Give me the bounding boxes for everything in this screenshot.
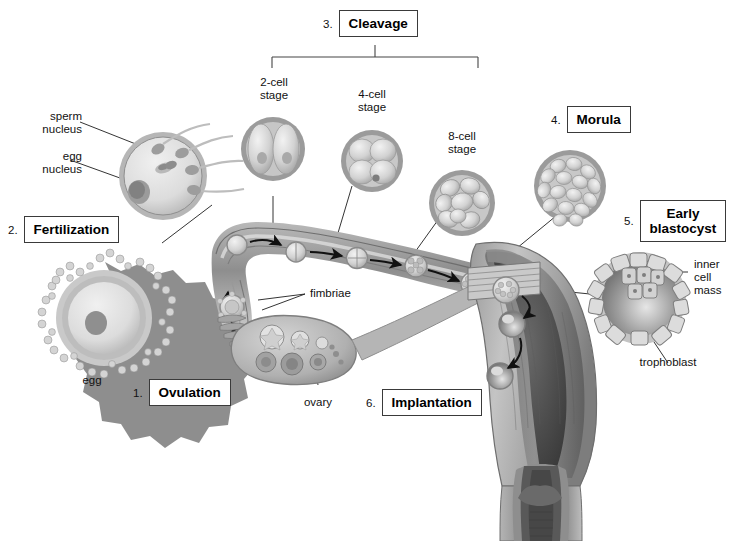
two-cell-stage-illustration (241, 117, 305, 181)
label-two-cell-stage: 2-cell stage (243, 76, 305, 102)
diagram-canvas: 3. Cleavage 2. Fertilization 1. Ovulatio… (0, 0, 738, 541)
step-ovulation: 1. Ovulation (133, 379, 231, 406)
uterus (468, 242, 596, 486)
label-ovary: ovary (296, 396, 340, 409)
step-implantation-label: Implantation (382, 389, 482, 416)
four-cell-stage-illustration (341, 130, 403, 192)
cleavage-bracket (272, 45, 478, 68)
label-fimbriae: fimbriae (310, 287, 351, 300)
step-early-blastocyst-label: Early blastocyst (640, 200, 727, 242)
step-ovulation-label: Ovulation (149, 379, 231, 406)
step-morula-number: 4. (551, 114, 561, 126)
broad-ligament (352, 286, 484, 360)
step-fertilization-label: Fertilization (24, 216, 120, 243)
step-implantation-number: 6. (366, 397, 376, 409)
label-sperm-nucleus: sperm nucleus (20, 110, 82, 136)
label-four-cell-stage: 4-cell stage (341, 88, 403, 114)
step-early-blastocyst-number: 5. (624, 215, 634, 227)
step-implantation: 6. Implantation (366, 389, 482, 416)
step-early-blastocyst: 5. Early blastocyst (624, 200, 726, 242)
step-fertilization-number: 2. (8, 224, 18, 236)
step-cleavage: 3. Cleavage (323, 10, 418, 37)
early-blastocyst-illustration (586, 252, 691, 346)
label-inner-cell-mass: inner cell mass (694, 258, 721, 297)
morula-illustration (534, 150, 606, 228)
step-ovulation-number: 1. (133, 387, 143, 399)
label-egg-nucleus: egg nucleus (20, 150, 82, 176)
label-egg: egg (72, 374, 112, 387)
step-fertilization: 2. Fertilization (8, 216, 119, 243)
step-cleavage-label: Cleavage (339, 10, 418, 37)
eight-cell-stage-illustration (429, 170, 495, 236)
label-eight-cell-stage: 8-cell stage (431, 130, 493, 156)
step-cleavage-number: 3. (323, 18, 333, 30)
step-morula-label: Morula (567, 106, 631, 133)
ovary (231, 316, 356, 385)
label-trophoblast: trophoblast (616, 356, 720, 369)
anatomy-illustration (0, 0, 738, 541)
step-morula: 4. Morula (551, 106, 631, 133)
